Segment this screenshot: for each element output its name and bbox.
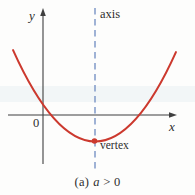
parabola-plot — [0, 0, 195, 195]
parabola-figure: y axis 0 x vertex (a)a > 0 — [0, 0, 195, 195]
y-axis-label: y — [29, 9, 35, 22]
x-axis-label: x — [169, 120, 175, 133]
axis-of-symmetry-label: axis — [100, 8, 120, 21]
x-axis-arrowhead — [169, 112, 177, 118]
vertex-label: vertex — [100, 140, 129, 152]
caption-index: (a) — [74, 175, 89, 189]
origin-label: 0 — [33, 117, 39, 130]
y-axis-arrowhead — [40, 8, 46, 16]
caption-condition: > 0 — [103, 175, 120, 189]
figure-caption: (a)a > 0 — [0, 175, 195, 190]
caption-variable: a — [89, 175, 100, 189]
vertex-point — [92, 138, 98, 144]
